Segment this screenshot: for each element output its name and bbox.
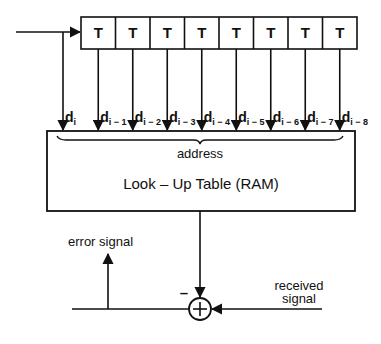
address-label: address <box>177 146 224 161</box>
delay-cell-label: T <box>335 24 344 41</box>
tap-label: di − 8 <box>342 109 368 127</box>
received-signal-label-line2: signal <box>282 291 316 306</box>
tap-label: di − 6 <box>273 109 299 127</box>
look-up-table-box: address Look – Up Table (RAM) <box>47 131 355 211</box>
delay-cell-label: T <box>163 24 172 41</box>
delay-cell-label: T <box>232 24 241 41</box>
lut-block-diagram: TTTTTTTT didi − 1di − 2di − 3di − 4di − … <box>0 0 381 344</box>
tap-label: di − 7 <box>307 109 333 127</box>
summing-junction <box>189 298 211 320</box>
delay-cell-label: T <box>128 24 137 41</box>
tap-label: di − 2 <box>135 109 161 127</box>
minus-sign: – <box>180 284 188 301</box>
tap-label: di − 4 <box>204 109 230 127</box>
tap-label: di − 5 <box>238 109 264 127</box>
error-output-line <box>72 254 189 309</box>
error-signal-label: error signal <box>68 234 133 249</box>
delay-cell-label: T <box>301 24 310 41</box>
tap-label: di <box>65 109 76 127</box>
address-brace <box>57 136 343 144</box>
delay-line: TTTTTTTT <box>81 17 357 49</box>
tap-label: di − 3 <box>169 109 195 127</box>
delay-cell-label: T <box>94 24 103 41</box>
delay-cell-label: T <box>266 24 275 41</box>
lut-title: Look – Up Table (RAM) <box>123 175 279 192</box>
delay-cell-label: T <box>197 24 206 41</box>
tap-label: di − 1 <box>100 109 126 127</box>
